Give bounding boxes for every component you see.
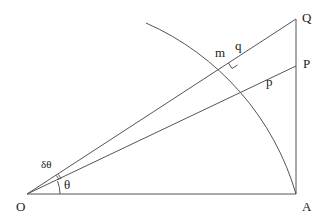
label-A: A bbox=[302, 199, 312, 214]
label-m: m bbox=[215, 45, 225, 60]
label-q: q bbox=[235, 38, 242, 53]
geometry-diagram: O A Q P m q p θ δθ bbox=[0, 0, 326, 214]
label-theta: θ bbox=[64, 177, 70, 192]
label-O: O bbox=[16, 199, 25, 214]
label-P: P bbox=[303, 56, 310, 71]
right-angle-marker bbox=[229, 63, 238, 69]
label-dtheta: δθ bbox=[41, 158, 51, 170]
angle-arc-theta bbox=[58, 181, 61, 194]
segment-OP bbox=[27, 66, 296, 194]
segment-OQ bbox=[27, 19, 296, 194]
label-p: p bbox=[266, 74, 273, 89]
label-Q: Q bbox=[302, 10, 312, 25]
